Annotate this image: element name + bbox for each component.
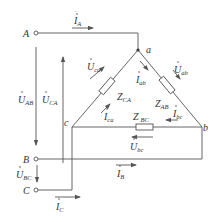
terminal-C-icon: [34, 188, 38, 192]
terminal-B-label: B: [23, 154, 29, 165]
label-Z_BC: ZBC: [133, 111, 150, 123]
arrow-I_ab: [140, 61, 148, 70]
node-c-label: c: [64, 117, 69, 128]
label-I_A: IA: [73, 15, 81, 27]
label-I_C: IC: [55, 201, 64, 213]
terminal-C-label: C: [23, 185, 30, 196]
node-b-label: b: [203, 122, 208, 133]
label-I_ca: Ica: [103, 111, 113, 123]
node-a-dot: [136, 48, 139, 51]
impedance-ab-box: [159, 76, 175, 94]
terminal-A-label: A: [22, 28, 30, 39]
terminal-B-icon: [34, 157, 38, 161]
terminal-A-icon: [34, 31, 38, 35]
label-Z_CA: ZCA: [117, 91, 131, 103]
impedance-bc-box: [136, 124, 153, 130]
label-U_bc: Ubc: [130, 141, 143, 153]
label-I_B: IB: [116, 168, 124, 180]
label-U_ab: Uab: [174, 64, 188, 76]
node-a-label: a: [146, 44, 151, 55]
label-I_bc: Ibc: [172, 108, 183, 120]
delta-circuit-diagram: A B C a b c IA · UAB UCA UBC IC IB Uca I…: [0, 0, 218, 222]
label-U_AB: UAB: [18, 94, 33, 106]
label-I_ab: Iab: [135, 74, 147, 86]
label-Z_AB: ZAB: [155, 98, 169, 110]
label-U_CA: UCA: [42, 94, 58, 106]
impedance-ca-box: [99, 77, 115, 95]
label-U_BC: UBC: [16, 169, 32, 181]
label-U_ca: Uca: [87, 61, 100, 73]
